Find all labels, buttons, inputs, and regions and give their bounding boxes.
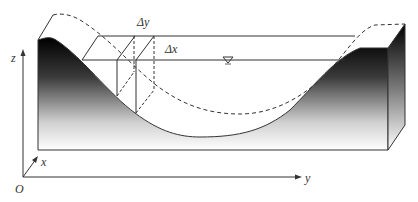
- y-axis-label: y: [304, 171, 311, 185]
- delta-y-label: Δy: [136, 15, 150, 29]
- z-axis-arrow-icon: [21, 49, 26, 56]
- channel-diagram-svg: Δy Δx z x y O: [0, 0, 418, 202]
- x-axis-label: x: [40, 155, 47, 169]
- origin-label: O: [15, 182, 24, 196]
- delta-x-label: Δx: [164, 42, 178, 56]
- left-bank-top-edge: [38, 15, 53, 40]
- z-axis-label: z: [10, 51, 16, 65]
- right-side-face: [388, 24, 405, 150]
- y-axis-arrow-icon: [295, 175, 302, 180]
- x-axis-arrow-icon: [32, 156, 38, 163]
- channel-diagram: Δy Δx z x y O: [0, 0, 418, 202]
